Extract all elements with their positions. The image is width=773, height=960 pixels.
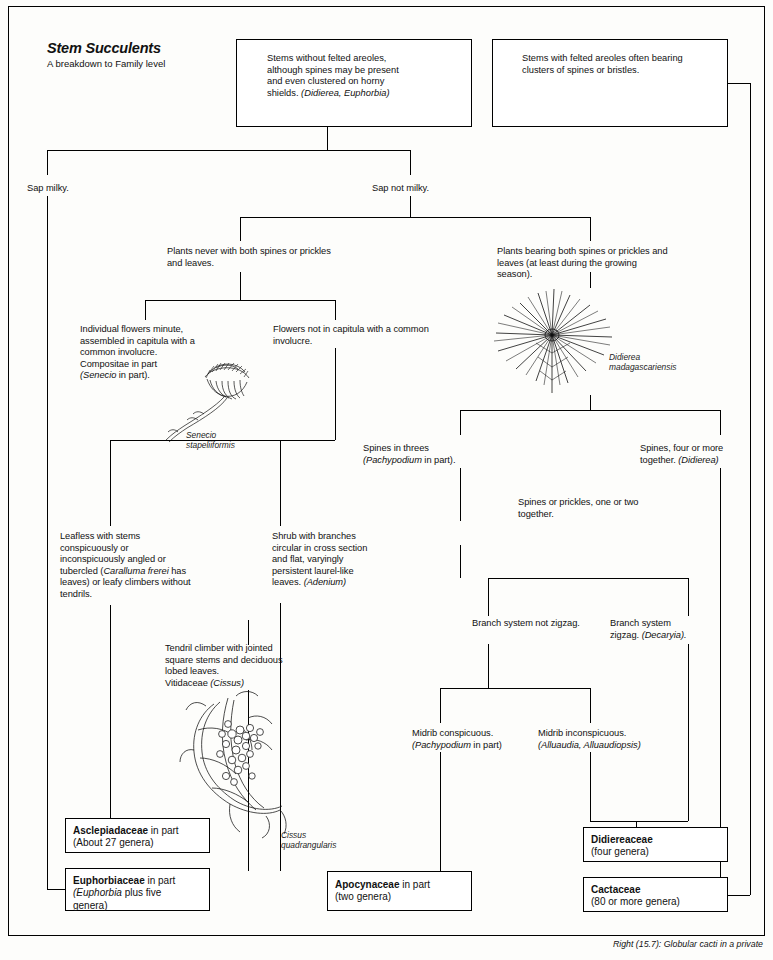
- label-midrib-inconspicuous: Midrib inconspicuous. (Alluaudia, Alluau…: [538, 728, 683, 751]
- asclepiadaceae-name: Asclepiadaceae: [73, 825, 148, 836]
- apocynaceae-detail: (two genera): [335, 891, 391, 902]
- label-spines-in-threes: Spines in threes (Pachypodium in part).: [363, 443, 503, 466]
- connector: [460, 496, 461, 521]
- box-asclepiadaceae: Asclepiadaceae in part(About 27 genera): [65, 818, 210, 853]
- connector: [47, 150, 48, 175]
- box-euphorbiaceae: Euphorbiaceae in part(Euphorbia plus fiv…: [65, 868, 210, 911]
- label-spines-four-or-more: Spines, four or more together. (Didierea…: [640, 443, 760, 466]
- connector: [47, 889, 65, 890]
- connector: [410, 150, 411, 175]
- connector: [440, 752, 441, 820]
- connector: [280, 440, 281, 526]
- label-both-spines-and-leaves: Plants bearing both spines or prickles a…: [497, 246, 672, 281]
- connector: [145, 300, 146, 320]
- connector: [327, 127, 328, 150]
- connector: [110, 440, 335, 441]
- connector: [488, 644, 489, 688]
- connector: [145, 300, 335, 301]
- connector: [110, 440, 111, 526]
- connector: [240, 217, 590, 218]
- connector: [335, 348, 336, 440]
- connector: [460, 468, 461, 496]
- box-stems-with-areoles-text: Stems with felted areoles often bearing …: [522, 53, 712, 76]
- asclepiadaceae-detail: (About 27 genera): [73, 837, 154, 848]
- connector: [335, 300, 336, 320]
- title-heading: Stem Succulents: [47, 40, 165, 56]
- connector: [110, 605, 111, 827]
- connector: [728, 895, 750, 896]
- label-midrib-conspicuous: Midrib conspicuous. (Pachypodium in part…: [412, 728, 537, 751]
- connector: [410, 196, 411, 217]
- connector: [720, 410, 721, 435]
- connector: [440, 820, 441, 871]
- asclepiadaceae-qualifier: in part: [148, 825, 179, 836]
- connector: [590, 752, 591, 821]
- euphorbiaceae-qualifier: in part: [145, 875, 176, 886]
- connector: [688, 578, 689, 616]
- connector: [688, 689, 689, 821]
- connector: [47, 150, 410, 151]
- didiereaceae-name: Didiereaceae: [591, 834, 653, 845]
- connector: [590, 272, 591, 288]
- connector: [240, 217, 241, 241]
- connector: [590, 395, 591, 410]
- box-apocynaceae: Apocynaceae in part(two genera): [327, 871, 472, 911]
- label-not-capitula: Flowers not in capitula with a common in…: [273, 324, 438, 347]
- title-subheading: A breakdown to Family level: [47, 58, 165, 69]
- label-sap-milky: Sap milky.: [27, 183, 117, 195]
- connector: [590, 688, 591, 723]
- connector: [440, 688, 590, 689]
- label-spines-one-or-two: Spines or prickles, one or two together.: [518, 497, 648, 520]
- connector: [240, 272, 241, 300]
- didierea-illustration: [490, 285, 620, 395]
- label-shrub-branches: Shrub with branches circular in cross se…: [272, 531, 387, 589]
- didierea-caption: Didierea madagascariensis: [609, 352, 719, 372]
- label-branch-not-zigzag: Branch system not zigzag.: [472, 618, 582, 630]
- box-cactaceae: Cactaceae(80 or more genera): [583, 877, 728, 912]
- box-didiereaceae: Didiereaceae(four genera): [583, 827, 728, 862]
- connector: [460, 410, 720, 411]
- cissus-caption: Cissus quadrangularis: [281, 830, 376, 850]
- box-stems-with-areoles: Stems with felted areoles often bearing …: [492, 39, 728, 127]
- page-title: Stem Succulents A breakdown to Family le…: [47, 40, 165, 69]
- label-sap-not-milky: Sap not milky.: [372, 183, 462, 195]
- apocynaceae-name: Apocynaceae: [335, 879, 399, 890]
- connector: [590, 821, 688, 822]
- cactaceae-name: Cactaceae: [591, 884, 640, 895]
- connector: [750, 83, 751, 895]
- cactaceae-detail: (80 or more genera): [591, 896, 680, 907]
- label-tendril-climber: Tendril climber with jointed square stem…: [165, 643, 330, 689]
- connector: [460, 410, 461, 435]
- connector: [720, 468, 721, 881]
- connector: [590, 217, 591, 241]
- connector: [488, 578, 688, 579]
- didiereaceae-detail: (four genera): [591, 846, 649, 857]
- connector: [688, 644, 689, 689]
- label-no-spines-and-leaves: Plants never with both spines or prickle…: [167, 246, 337, 269]
- bottom-caption: Right (15.7): Globular cacti in a privat…: [613, 939, 763, 950]
- page-border: [8, 6, 765, 936]
- connector: [488, 578, 489, 616]
- label-branch-zigzag: Branch system zigzag. (Decaryia).: [610, 618, 730, 641]
- box-stems-without-areoles: Stems without felted areoles, although s…: [236, 39, 472, 127]
- connector: [47, 196, 48, 889]
- connector: [248, 620, 249, 645]
- label-leafless-stems: Leafless with stems conspicuously or inc…: [60, 531, 245, 601]
- connector: [440, 688, 441, 723]
- euphorbiaceae-name: Euphorbiaceae: [73, 875, 145, 886]
- connector: [728, 83, 750, 84]
- box-stems-without-areoles-text: Stems without felted areoles, although s…: [267, 53, 462, 99]
- apocynaceae-qualifier: in part: [399, 879, 430, 890]
- connector: [460, 545, 461, 578]
